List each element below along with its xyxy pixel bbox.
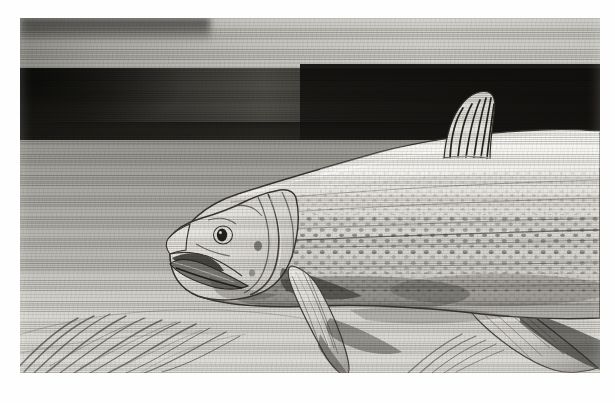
page-canvas	[0, 0, 615, 403]
paper-grain-texture	[20, 18, 600, 373]
illustration-plate	[20, 18, 600, 373]
